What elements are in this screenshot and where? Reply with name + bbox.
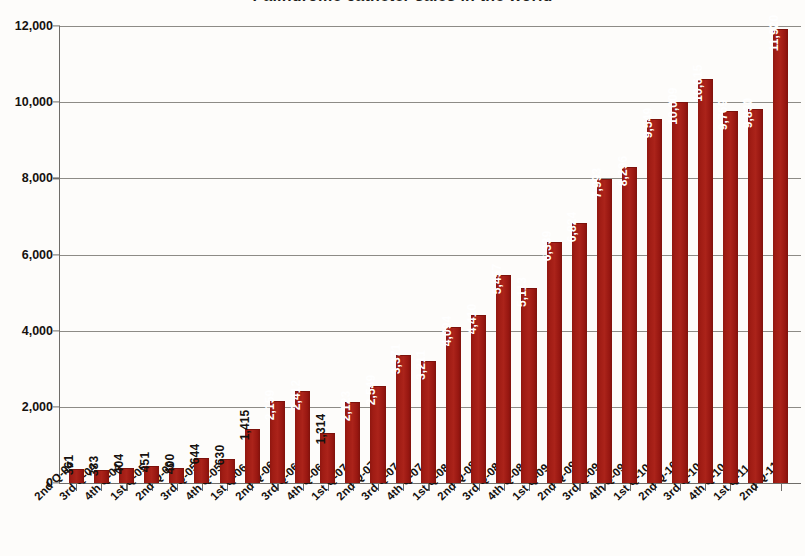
- bar-slot: 333: [94, 26, 109, 483]
- bar[interactable]: [622, 167, 637, 483]
- y-axis-tick-mark: [53, 25, 60, 26]
- bar-value-label: 2,412: [289, 380, 303, 411]
- bar-value-label: 9,549: [641, 108, 655, 139]
- bar-slot: 11,920: [773, 26, 788, 483]
- bar-slot: 1,415: [245, 26, 260, 483]
- y-axis-tick-mark: [53, 254, 60, 255]
- bar-value-label: 10,615: [691, 64, 705, 101]
- bar-slot: 361: [69, 26, 84, 483]
- bar[interactable]: [496, 275, 511, 483]
- x-axis-tick-mark: [781, 484, 782, 491]
- bar[interactable]: [672, 102, 687, 483]
- bar[interactable]: [521, 288, 536, 483]
- bar-value-label: 11,920: [767, 15, 781, 52]
- y-axis-tick-label: 10,000: [0, 95, 53, 109]
- y-axis-tick-mark: [53, 178, 60, 179]
- bar-slot: 2,412: [295, 26, 310, 483]
- y-axis-tick-label: 4,000: [0, 324, 53, 338]
- bar-value-label: 4,410: [465, 304, 479, 335]
- bar-slot: 404: [119, 26, 134, 483]
- bar-slot: 400: [169, 26, 184, 483]
- bar-slot: 2,159: [270, 26, 285, 483]
- bar-chart: Palindrome catheter sales in the world 0…: [0, 0, 805, 556]
- bar-slot: 1,314: [320, 26, 335, 483]
- bar-value-label: 400: [163, 454, 177, 474]
- y-axis-tick-label: 12,000: [0, 19, 53, 33]
- bar-slot: 3,211: [421, 26, 436, 483]
- chart-title: Palindrome catheter sales in the world: [0, 0, 805, 5]
- bar-value-label: 6,824: [565, 212, 579, 243]
- bar[interactable]: [471, 315, 486, 483]
- bar-value-label: 1,415: [238, 410, 252, 441]
- bar-value-label: 8,296: [616, 156, 630, 187]
- bar-slot: 5,457: [496, 26, 511, 483]
- bar-value-label: 6,339: [540, 230, 554, 261]
- y-axis-tick-label: 6,000: [0, 248, 53, 262]
- bar-slot: 3,371: [396, 26, 411, 483]
- bar[interactable]: [723, 111, 738, 483]
- bar-slot: 8,296: [622, 26, 637, 483]
- y-axis-tick-label: 2,000: [0, 400, 53, 414]
- bar-slot: 9,830: [748, 26, 763, 483]
- bar-slot: 644: [194, 26, 209, 483]
- bar-value-label: 644: [188, 444, 202, 464]
- bar-value-label: 3,371: [389, 343, 403, 374]
- bar-value-label: 3,211: [414, 350, 428, 380]
- bar-value-label: 9,769: [716, 100, 730, 131]
- bar-slot: 5,113: [521, 26, 536, 483]
- bar-value-label: 10,009: [666, 87, 680, 124]
- bar[interactable]: [547, 242, 562, 483]
- bar-slot: 10,615: [698, 26, 713, 483]
- bar-value-label: 2,549: [364, 375, 378, 406]
- bar[interactable]: [446, 327, 461, 483]
- bar-slot: 451: [144, 26, 159, 483]
- bar-slot: 4,410: [471, 26, 486, 483]
- y-axis-tick-mark: [53, 330, 60, 331]
- bar-value-label: 5,113: [515, 277, 529, 307]
- bar-slot: 2,549: [370, 26, 385, 483]
- bar-value-label: 451: [138, 452, 152, 472]
- bar-slot: 9,769: [723, 26, 738, 483]
- bar-slot: 10,009: [672, 26, 687, 483]
- bar-slot: 9,549: [647, 26, 662, 483]
- bar-value-label: 9,830: [741, 97, 755, 128]
- bar-slot: 7,993: [597, 26, 612, 483]
- bar-value-label: 361: [62, 455, 76, 475]
- bar-slot: 2,123: [345, 26, 360, 483]
- bar-slot: 4,094: [446, 26, 461, 483]
- bar[interactable]: [647, 119, 662, 483]
- bar-slot: 6,339: [547, 26, 562, 483]
- bar-value-label: 630: [213, 445, 227, 465]
- bar-value-label: 5,457: [490, 264, 504, 295]
- y-axis-tick-mark: [53, 406, 60, 407]
- bar[interactable]: [698, 79, 713, 483]
- bar-slot: 6,824: [572, 26, 587, 483]
- bar-value-label: 4,094: [440, 316, 454, 347]
- bar-value-label: 1,314: [314, 414, 328, 445]
- bar-value-label: 7,993: [590, 167, 604, 198]
- bar-value-label: 333: [87, 456, 101, 476]
- bar-value-label: 2,159: [263, 390, 277, 421]
- bar-slot: 630: [220, 26, 235, 483]
- bar[interactable]: [748, 109, 763, 483]
- bar[interactable]: [572, 223, 587, 483]
- bar-value-label: 2,123: [339, 391, 353, 422]
- bar[interactable]: [597, 179, 612, 483]
- y-axis-tick-label: 8,000: [0, 171, 53, 185]
- y-axis-tick-mark: [53, 102, 60, 103]
- bar-value-label: 404: [112, 453, 126, 473]
- bar[interactable]: [773, 29, 788, 483]
